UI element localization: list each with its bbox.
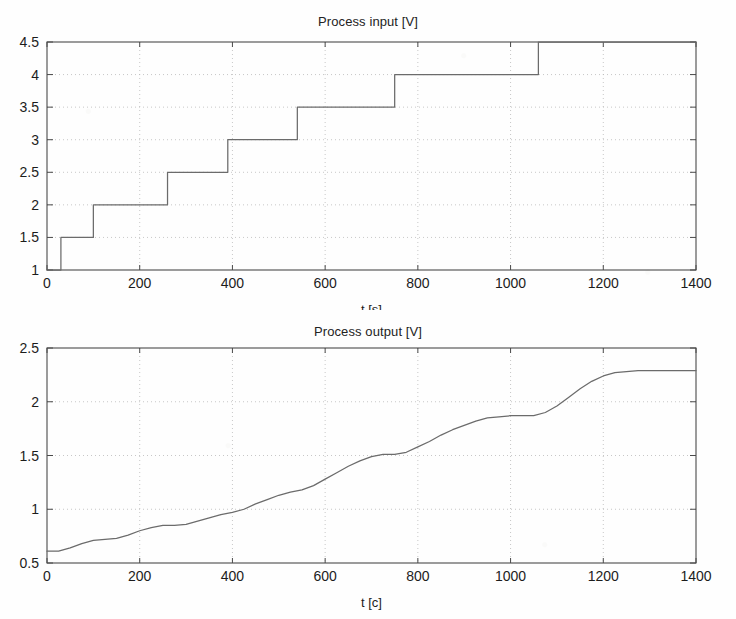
y-tick-label: 0.5	[20, 555, 40, 571]
plot-process-input: 020040060080010001200140011.522.533.544.…	[0, 0, 736, 310]
y-tick-label: 2	[31, 197, 39, 213]
x-tick-label: 1000	[495, 568, 526, 584]
figure-process-input: Process input [V] 0200400600800100012001…	[0, 0, 736, 310]
figure-process-output: Process output [V] 020040060080010001200…	[0, 310, 736, 619]
y-tick-label: 1	[31, 262, 39, 278]
x-tick-label: 1200	[588, 568, 619, 584]
x-tick-label: 400	[221, 568, 245, 584]
y-tick-label: 4.5	[20, 34, 40, 50]
x-tick-label: 200	[128, 568, 152, 584]
data-series-line	[47, 42, 696, 270]
x-tick-label: 1400	[680, 275, 711, 291]
x-tick-label: 0	[43, 275, 51, 291]
y-tick-label: 1	[31, 501, 39, 517]
plot-process-output: 02004006008001000120014000.511.522.5t [c…	[0, 310, 736, 619]
x-tick-label: 800	[406, 568, 430, 584]
x-tick-label: 400	[221, 275, 245, 291]
x-tick-label: 600	[313, 275, 337, 291]
y-tick-label: 3	[31, 132, 39, 148]
y-tick-label: 2.5	[20, 164, 40, 180]
y-tick-label: 1.5	[20, 448, 40, 464]
x-tick-label: 200	[128, 275, 152, 291]
x-tick-label: 0	[43, 568, 51, 584]
figure-page: Process input [V] 0200400600800100012001…	[0, 0, 736, 619]
x-axis-label: t [c]	[361, 595, 382, 610]
x-tick-label: 800	[406, 275, 430, 291]
y-tick-label: 3.5	[20, 99, 40, 115]
x-tick-label: 1200	[588, 275, 619, 291]
y-tick-label: 4	[31, 67, 39, 83]
x-tick-label: 600	[313, 568, 337, 584]
y-tick-label: 2	[31, 394, 39, 410]
axes-box	[47, 42, 696, 270]
x-tick-label: 1400	[680, 568, 711, 584]
y-tick-label: 1.5	[20, 229, 40, 245]
x-axis-label: t [s]	[361, 302, 382, 310]
y-tick-label: 2.5	[20, 340, 40, 356]
data-series-line	[47, 371, 696, 552]
x-tick-label: 1000	[495, 275, 526, 291]
